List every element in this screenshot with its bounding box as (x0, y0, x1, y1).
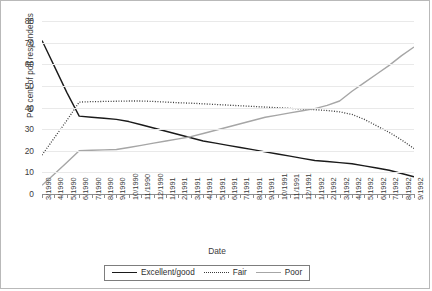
x-axis-tick-label: 8/1992 (405, 177, 412, 200)
x-axis-tick-label: 2/1991 (181, 177, 188, 200)
x-axis-tick-label: 5/1991 (219, 177, 226, 200)
x-axis-tick (377, 194, 378, 198)
chart-legend: Excellent/goodFairPoor (104, 265, 310, 281)
x-axis-tick (290, 194, 291, 198)
series-line-fair (42, 101, 414, 155)
x-axis-tick-label: 12/1991 (305, 173, 312, 200)
y-axis-tick-label: 50 (1, 82, 34, 90)
x-axis-tick (191, 194, 192, 198)
y-axis-tick-label: 20 (1, 147, 34, 155)
x-axis-tick-label: 3/1992 (343, 177, 350, 200)
x-axis-tick-label: 11/1990 (144, 174, 151, 200)
gridline (42, 21, 414, 22)
x-axis-tick-label: 4/1991 (206, 177, 213, 200)
y-axis-tick-label: 0 (1, 190, 34, 198)
x-axis-tick-label: 9/1990 (119, 177, 126, 200)
y-axis-tick-label: 80 (1, 17, 34, 25)
x-axis-tick (278, 194, 279, 198)
x-axis-tick-label: 9/1992 (417, 177, 424, 200)
x-axis-tick-label: 10/1990 (132, 173, 139, 200)
y-axis-tick-label: 40 (1, 104, 34, 112)
x-axis-tick-label: 7/1992 (392, 177, 399, 200)
x-axis-tick (402, 194, 403, 198)
x-axis-tick (67, 194, 68, 198)
x-axis-tick-label: 10/1991 (281, 173, 288, 200)
x-axis-tick-label: 5/1992 (367, 177, 374, 200)
x-axis-tick-label: 4/1992 (355, 177, 362, 200)
gridline (42, 151, 414, 152)
y-axis-tick-label: 30 (1, 125, 34, 133)
x-axis-tick-label: 5/1990 (70, 177, 77, 200)
x-axis-tick-label: 8/1991 (256, 177, 263, 200)
gridline (42, 64, 414, 65)
x-axis-tick (129, 194, 130, 198)
y-axis-tick-label: 60 (1, 60, 34, 68)
x-axis-tick-label: 12/1990 (157, 173, 164, 200)
gridline (42, 172, 414, 173)
x-axis-tick-label: 9/1991 (268, 177, 275, 200)
y-axis-tick-label: 10 (1, 168, 34, 176)
x-axis-tick-label: 6/1990 (82, 177, 89, 200)
x-axis-tick-label: 4/1990 (57, 177, 64, 200)
legend-item-label: Poor (285, 268, 302, 277)
gridline (42, 86, 414, 87)
x-axis-tick (42, 194, 43, 198)
legend-item: Excellent/good (112, 268, 195, 277)
x-axis-tick-label: 2/1992 (330, 177, 337, 200)
x-axis-tick (228, 194, 229, 198)
x-axis-tick (166, 194, 167, 198)
x-axis-tick (154, 194, 155, 198)
x-axis-tick-label: 6/1991 (231, 177, 238, 200)
x-axis-tick-label: 3/1990 (45, 177, 52, 200)
chart-figure: Per cent of poll respondents 01020304050… (0, 0, 430, 289)
x-axis-tick (315, 194, 316, 198)
gridline (42, 129, 414, 130)
x-axis-tick (352, 194, 353, 198)
line-dotted-icon (204, 269, 229, 276)
line-solid-gray-icon (256, 269, 281, 276)
x-axis-tick (340, 194, 341, 198)
gridline (42, 43, 414, 44)
line-solid-black-icon (112, 269, 137, 276)
x-axis-tick (92, 194, 93, 198)
x-axis-tick (253, 194, 254, 198)
x-axis-tick-label: 7/1990 (95, 177, 102, 200)
legend-item-label: Excellent/good (141, 268, 195, 277)
x-axis-title: Date (1, 246, 432, 256)
x-axis-tick (104, 194, 105, 198)
x-axis-tick-label: 6/1992 (380, 177, 387, 200)
x-axis-tick-label: 1/1991 (169, 177, 176, 200)
legend-item: Fair (204, 268, 247, 277)
x-axis-tick-label: 3/1991 (194, 177, 201, 200)
x-axis-tick-label: 11/1991 (293, 174, 300, 200)
series-line-excellent-good (42, 40, 414, 176)
x-axis-tick-label: 1/1992 (318, 177, 325, 200)
legend-item-label: Fair (233, 268, 247, 277)
x-axis-tick (414, 194, 415, 198)
plot-area (42, 21, 414, 194)
x-axis-tick (216, 194, 217, 198)
y-axis-tick-label: 70 (1, 39, 34, 47)
legend-item: Poor (256, 268, 302, 277)
gridline (42, 108, 414, 109)
x-axis-tick-label: 8/1990 (107, 177, 114, 200)
x-axis-tick-label: 7/1991 (243, 177, 250, 200)
